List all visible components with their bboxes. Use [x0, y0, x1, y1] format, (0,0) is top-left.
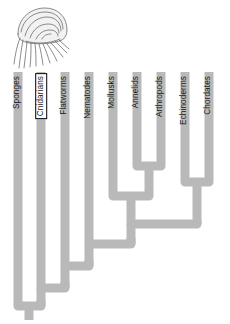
- taxon-label-cnidarians[interactable]: Cnidarians: [35, 73, 47, 119]
- cladogram-figure: Sponges Cnidarians Flatworms Nematodes M…: [0, 0, 230, 324]
- taxon-label-echinoderms: Echinoderms: [180, 76, 188, 125]
- taxon-label-flatworms: Flatworms: [60, 76, 68, 115]
- taxon-label-chordates: Chordates: [204, 76, 212, 115]
- taxon-label-mollusks: Mollusks: [108, 76, 116, 109]
- taxon-label-arthropods: Arthropods: [156, 76, 164, 117]
- cladogram-branches: [0, 0, 230, 324]
- taxon-label-sponges: Sponges: [13, 76, 21, 109]
- taxon-label-nematodes: Nematodes: [84, 76, 92, 119]
- taxon-label-annelids: Annelids: [132, 76, 140, 108]
